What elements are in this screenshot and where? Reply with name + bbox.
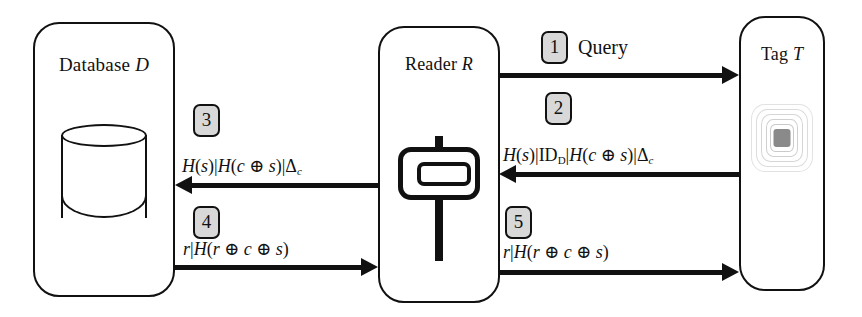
message-label-step-5: r|H(r ⊕ c ⊕ s)	[503, 243, 609, 261]
arrow-line-step-2	[516, 172, 739, 177]
arrow-head-step-3	[175, 176, 192, 194]
reader-head	[398, 147, 480, 200]
protocol-diagram: Database D Reader R Tag T 1 Quer	[0, 0, 862, 317]
arrow-head-step-2	[499, 165, 516, 183]
arrow-line-step-1	[500, 73, 722, 78]
step-badge-5: 5	[505, 206, 532, 239]
entity-database: Database D	[33, 22, 175, 297]
entity-reader: Reader R	[378, 26, 500, 303]
database-cylinder-icon	[61, 124, 147, 229]
entity-database-label: Database D	[35, 54, 173, 76]
cylinder-top	[61, 124, 147, 147]
message-label-step-4: r|H(r ⊕ c ⊕ s)	[183, 240, 289, 258]
rfid-reader-icon	[396, 136, 482, 261]
step-badge-3: 3	[193, 104, 220, 137]
entity-reader-label: Reader R	[380, 54, 498, 75]
tag-chip	[774, 129, 791, 147]
arrow-line-step-5	[500, 270, 722, 275]
rfid-tag-antenna-icon	[751, 104, 813, 172]
arrow-line-step-4	[175, 265, 361, 270]
arrow-head-step-1	[722, 66, 739, 84]
entity-tag-label: Tag T	[741, 44, 823, 65]
arrow-head-step-5	[722, 263, 739, 281]
arrow-head-step-4	[361, 258, 378, 276]
step-badge-1: 1	[541, 31, 568, 64]
step-badge-2: 2	[545, 92, 572, 125]
message-label-step-2: H(s)|IDD|H(c ⊕ s)|Δc	[503, 146, 653, 166]
entity-tag: Tag T	[739, 16, 825, 291]
message-label-step-1: Query	[578, 36, 628, 59]
reader-screen	[417, 162, 471, 186]
arrow-line-step-3	[192, 183, 378, 188]
message-label-step-3: H(s)|H(c ⊕ s)|Δc	[182, 157, 302, 177]
step-badge-4: 4	[193, 206, 220, 239]
